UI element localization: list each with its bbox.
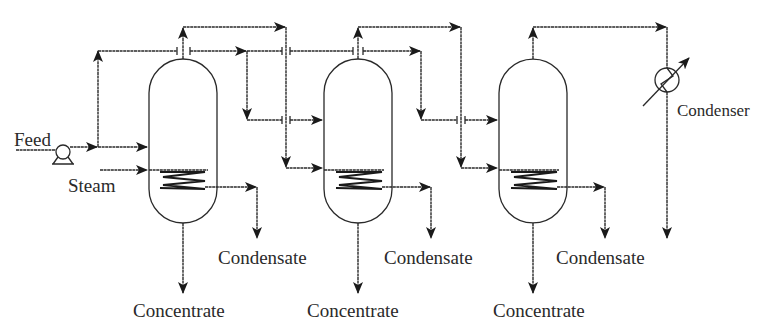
- pump-icon: [52, 145, 74, 164]
- evaporator-diagram: Feed Steam Condenser Condensate Condensa…: [0, 0, 760, 333]
- steam-label: Steam: [68, 175, 116, 196]
- feed-line: [70, 47, 497, 147]
- condensate-label-2: Condensate: [384, 247, 473, 268]
- concentrate-label-1: Concentrate: [133, 300, 225, 321]
- concentrate-label-3: Concentrate: [493, 300, 585, 321]
- condensate-label-3: Condensate: [556, 247, 645, 268]
- effect-3-vessel: [499, 59, 567, 223]
- vapour-line-3: [533, 27, 667, 68]
- concentrate-label-2: Concentrate: [307, 300, 399, 321]
- feed-label: Feed: [14, 129, 51, 150]
- condensate-label-1: Condensate: [218, 247, 307, 268]
- condenser-label: Condenser: [677, 101, 750, 120]
- effect-2-vessel: [324, 59, 392, 223]
- effect-1-vessel: [149, 59, 217, 223]
- condenser-icon: [643, 58, 689, 106]
